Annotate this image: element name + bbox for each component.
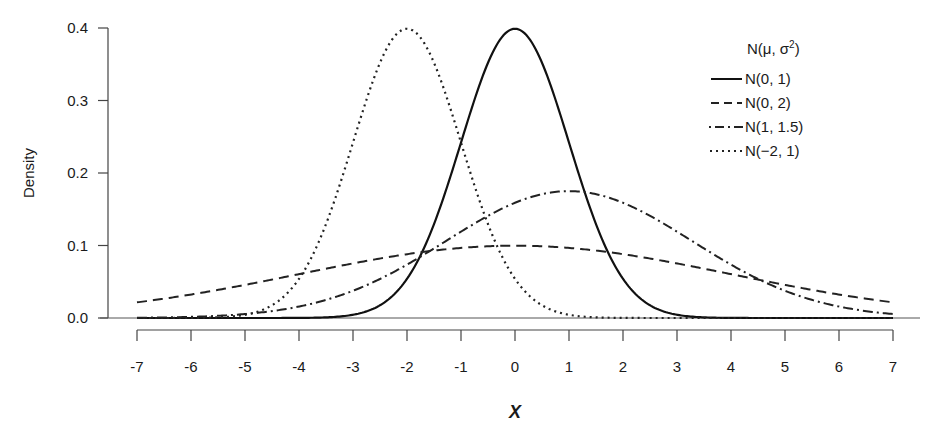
y-tick-label: 0.0 (67, 309, 88, 326)
y-axis: 0.00.10.20.30.4 Density (20, 19, 108, 326)
x-tick-label: 2 (619, 358, 627, 375)
x-tick-label: -7 (130, 358, 143, 375)
x-tick-label: -1 (454, 358, 467, 375)
y-tick-label: 0.4 (67, 19, 88, 36)
legend-item: N(0, 2) (711, 94, 791, 111)
x-tick-label: 3 (673, 358, 681, 375)
x-tick-label: 0 (511, 358, 519, 375)
y-axis-label: Density (20, 147, 37, 198)
y-tick-label: 0.1 (67, 237, 88, 254)
legend-item: N(−2, 1) (710, 142, 800, 159)
x-tick-label: -6 (184, 358, 197, 375)
curve-n-0-2 (137, 246, 893, 303)
x-tick-label: -2 (400, 358, 413, 375)
x-tick-label: -3 (346, 358, 359, 375)
legend-item: N(0, 1) (711, 70, 791, 87)
x-axis-label: X (508, 402, 522, 422)
curve-n-1-1-5 (137, 191, 893, 318)
x-tick-label: 5 (781, 358, 789, 375)
y-tick-label: 0.3 (67, 92, 88, 109)
x-tick-label: 4 (727, 358, 735, 375)
svg-text:N(0, 2): N(0, 2) (745, 94, 791, 111)
x-tick-label: 6 (835, 358, 843, 375)
svg-text:N(0, 1): N(0, 1) (745, 70, 791, 87)
svg-text:N(−2, 1): N(−2, 1) (745, 142, 800, 159)
x-tick-label: -4 (292, 358, 305, 375)
legend-item: N(1, 1.5) (709, 118, 803, 135)
x-tick-label: -5 (238, 358, 251, 375)
legend: N(μ, σ2) N(0, 1) N(0, 2) N(1, 1.5) N(−2,… (709, 39, 803, 159)
svg-text:N(1, 1.5): N(1, 1.5) (745, 118, 803, 135)
legend-title: N(μ, σ2) (747, 39, 800, 57)
x-tick-label: 7 (889, 358, 897, 375)
y-tick-label: 0.2 (67, 164, 88, 181)
x-tick-label: 1 (565, 358, 573, 375)
density-chart: 0.00.10.20.30.4 Density -7-6-5-4-3-2-101… (0, 0, 936, 433)
x-axis: -7-6-5-4-3-2-101234567 X (130, 330, 897, 422)
